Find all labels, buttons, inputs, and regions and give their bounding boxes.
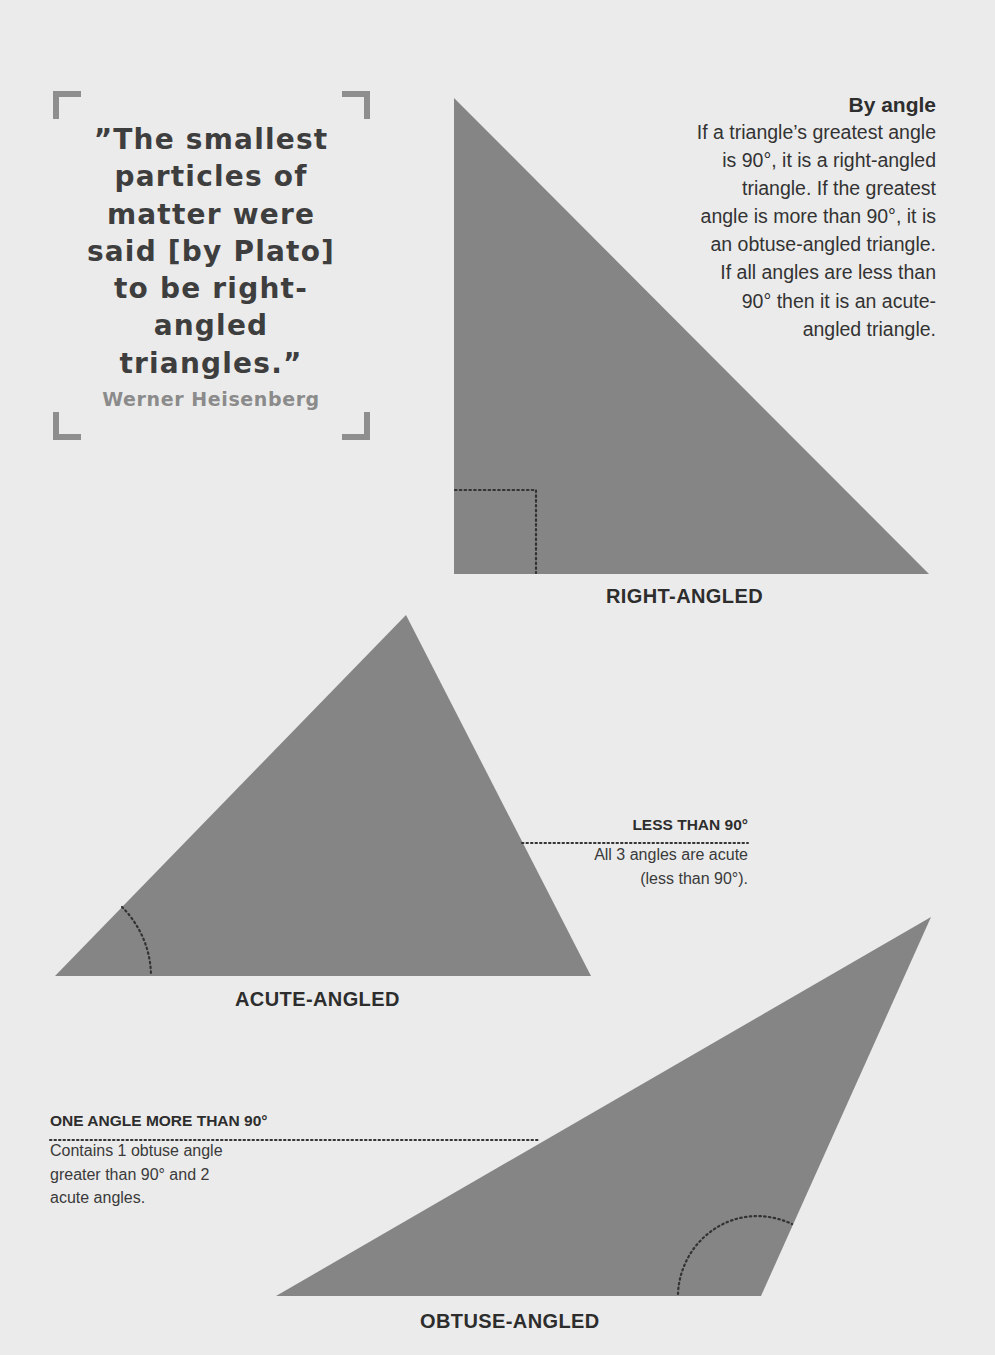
bracket-bottom-left-icon	[53, 412, 81, 440]
body-line: angle is more than 90°, it is	[610, 202, 936, 230]
callout-heading: LESS THAN 90°	[520, 816, 748, 834]
callout-body: Contains 1 obtuse angle greater than 90°…	[50, 1139, 350, 1210]
quote-line: angled	[80, 307, 342, 344]
body-line: is 90°, it is a right-angled	[610, 146, 936, 174]
section-body: If a triangle’s greatest angle is 90°, i…	[610, 118, 936, 343]
body-line: triangle. If the greatest	[610, 174, 936, 202]
body-line: If a triangle’s greatest angle	[610, 118, 936, 146]
callout-line: (less than 90°).	[520, 867, 748, 891]
right-angled-label: RIGHT-ANGLED	[606, 585, 763, 608]
body-line: angled triangle.	[610, 315, 936, 343]
acute-angled-label: ACUTE-ANGLED	[235, 988, 400, 1011]
body-line: 90° then it is an acute-	[610, 287, 936, 315]
quote-text: ”The smallest particles of matter were s…	[80, 121, 342, 382]
bracket-bottom-right-icon	[342, 412, 370, 440]
quote-line: triangles.”	[80, 345, 342, 382]
callout-heading: ONE ANGLE MORE THAN 90°	[50, 1112, 350, 1130]
quote-line: matter were	[80, 196, 342, 233]
quote-line: ”The smallest	[80, 121, 342, 158]
callout-line: Contains 1 obtuse angle	[50, 1139, 350, 1163]
quote-block: ”The smallest particles of matter were s…	[50, 90, 372, 442]
quote-author: Werner Heisenberg	[50, 388, 372, 410]
obtuse-angled-label: OBTUSE-ANGLED	[420, 1310, 600, 1333]
acute-callout: LESS THAN 90° All 3 angles are acute (le…	[520, 816, 748, 890]
callout-line: acute angles.	[50, 1186, 350, 1210]
section-heading: By angle	[610, 92, 936, 118]
callout-line: greater than 90° and 2	[50, 1163, 350, 1187]
by-angle-section: By angle If a triangle’s greatest angle …	[610, 92, 936, 343]
obtuse-callout: ONE ANGLE MORE THAN 90° Contains 1 obtus…	[50, 1112, 350, 1210]
callout-body: All 3 angles are acute (less than 90°).	[520, 843, 748, 890]
quote-line: to be right-	[80, 270, 342, 307]
body-line: an obtuse-angled triangle.	[610, 230, 936, 258]
quote-line: said [by Plato]	[80, 233, 342, 270]
bracket-top-right-icon	[342, 91, 370, 119]
bracket-top-left-icon	[53, 91, 81, 119]
callout-line: All 3 angles are acute	[520, 843, 748, 867]
body-line: If all angles are less than	[610, 258, 936, 286]
quote-line: particles of	[80, 158, 342, 195]
